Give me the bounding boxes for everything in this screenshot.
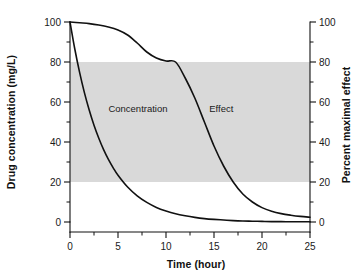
y-axis-tick-label: 40 <box>50 137 62 148</box>
x-axis-tick-label: 15 <box>208 241 220 252</box>
x-axis-tick-label: 0 <box>67 241 73 252</box>
y-axis-tick-label: 80 <box>50 57 62 68</box>
y2-axis-tick-label: 80 <box>319 57 331 68</box>
y-axis-tick-label: 0 <box>55 217 61 228</box>
x-axis-title: Time (hour) <box>167 258 226 270</box>
concentration-series-label: Concentration <box>108 103 167 114</box>
therapeutic-effect-band <box>70 62 310 182</box>
y2-axis-tick-label: 60 <box>319 97 331 108</box>
x-axis-tick-label: 20 <box>256 241 268 252</box>
y2-axis-tick-label: 20 <box>319 177 331 188</box>
y-axis-tick-label: 100 <box>44 17 61 28</box>
y2-axis-title: Percent maximal effect <box>340 66 352 183</box>
effect-series-label: Effect <box>209 103 233 114</box>
x-axis-tick-label: 5 <box>115 241 121 252</box>
y-axis-tick-label: 60 <box>50 97 62 108</box>
y2-axis-tick-label: 40 <box>319 137 331 148</box>
y-axis-title: Drug concentration (mg/L) <box>5 55 17 189</box>
drug-concentration-effect-chart: 020406080100 020406080100 0510152025 Dru… <box>0 0 364 279</box>
x-axis-tick-label: 10 <box>160 241 172 252</box>
y2-axis-tick-label: 0 <box>319 217 325 228</box>
y-axis-tick-label: 20 <box>50 177 62 188</box>
y2-axis-tick-label: 100 <box>319 17 336 28</box>
x-axis-tick-label: 25 <box>304 241 316 252</box>
